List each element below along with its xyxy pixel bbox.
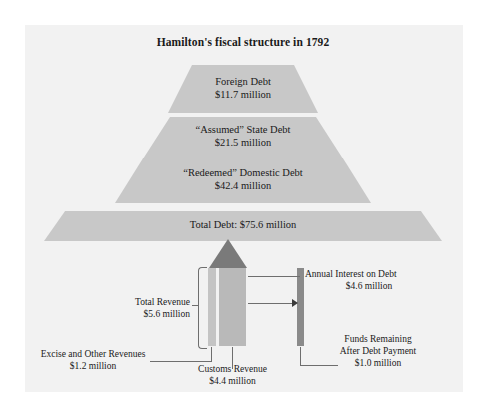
annotation-customs-label: Customs Revenue <box>165 364 300 376</box>
bar-excise-and-other-revenues <box>208 268 216 346</box>
annotation-customs-amount: $4.4 million <box>165 376 300 388</box>
tier-assumed-amount: $21.5 million <box>143 136 343 149</box>
figure-canvas: Hamilton's fiscal structure in 1792 Fore… <box>0 0 486 413</box>
tier-label-assumed-state-debt: “Assumed” State Debt $21.5 million <box>143 123 343 149</box>
tier-redeemed-amount: $42.4 million <box>115 179 371 192</box>
annotation-annual-interest-on-debt: Annual Interest on Debt $4.6 million <box>305 269 455 293</box>
tier-label-foreign-debt: Foreign Debt $11.7 million <box>168 75 318 101</box>
annotation-interest-label: Annual Interest on Debt <box>305 269 455 281</box>
annotation-excise-and-other-revenues: Excise and Other Revenues $1.2 million <box>34 349 152 373</box>
leader-line-interest <box>248 276 300 277</box>
annotation-customs-revenue: Customs Revenue $4.4 million <box>165 364 300 388</box>
leader-line-excise-vertical <box>211 347 212 361</box>
tier-label-redeemed-domestic-debt: “Redeemed” Domestic Debt $42.4 million <box>115 166 371 192</box>
annotation-total-revenue: Total Revenue $5.6 million <box>78 297 190 321</box>
arrow-customs-to-remaining <box>248 303 294 304</box>
annotation-funds-remaining: Funds Remaining After Debt Payment $1.0 … <box>318 334 438 370</box>
tier-foreign-name: Foreign Debt <box>168 75 318 88</box>
annotation-interest-amount: $4.6 million <box>305 281 433 293</box>
annotation-remaining-label-1: Funds Remaining <box>318 334 438 346</box>
tier-label-total-debt: Total Debt: $75.6 million <box>44 218 442 231</box>
tier-total-name: Total Debt: $75.6 million <box>44 218 442 231</box>
leader-line-remaining-vertical <box>300 347 301 365</box>
bar-funds-remaining <box>297 268 304 346</box>
tier-foreign-amount: $11.7 million <box>168 88 318 101</box>
annotation-remaining-label-2: After Debt Payment <box>318 346 438 358</box>
annotation-excise-amount: $1.2 million <box>34 361 152 373</box>
annotation-total-revenue-label: Total Revenue <box>78 297 190 309</box>
tier-assumed-name: “Assumed” State Debt <box>143 123 343 136</box>
annotation-total-revenue-amount: $5.6 million <box>78 309 190 321</box>
figure-title: Hamilton's fiscal structure in 1792 <box>0 36 486 50</box>
bar-customs-revenue <box>219 268 246 346</box>
tier-redeemed-name: “Redeemed” Domestic Debt <box>115 166 371 179</box>
total-revenue-brace <box>198 267 207 349</box>
leader-line-excise-horizontal <box>150 361 212 362</box>
total-revenue-brace-pointer <box>192 305 198 306</box>
annotation-remaining-amount: $1.0 million <box>318 358 438 370</box>
arrow-head-icon <box>292 299 298 307</box>
annotation-excise-label: Excise and Other Revenues <box>34 349 152 361</box>
